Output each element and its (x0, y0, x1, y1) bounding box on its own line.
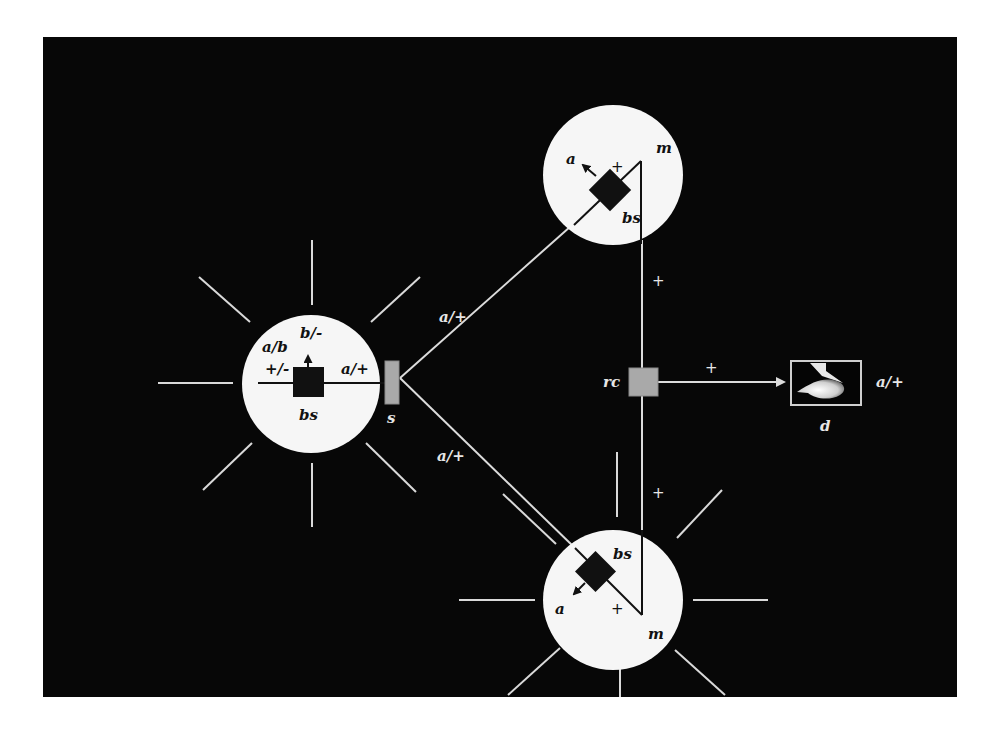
left-node-bs-label: bs (299, 406, 318, 424)
top-node-bs-label: bs (622, 209, 641, 227)
edge-label-top-to-rc: + (652, 272, 665, 290)
switch-label: s (387, 409, 396, 427)
left-node-label-upper-left: a/b (262, 338, 288, 356)
relay-label: rc (603, 373, 620, 391)
bottom-node-corner-label: m (648, 625, 664, 643)
edge-label-bottom-to-rc: + (652, 484, 665, 502)
switch-block (385, 361, 399, 404)
top-node-plus-label: + (611, 158, 624, 176)
bottom-base-station-node[interactable]: bs a + m (543, 530, 683, 670)
edge-label-s-to-bottom: a/+ (437, 447, 465, 465)
relay-block (629, 368, 658, 396)
bottom-node-bs-label: bs (613, 545, 632, 563)
bottom-node-arrow-label: a (555, 600, 565, 618)
top-node-arrow-label: a (566, 150, 576, 168)
left-base-station-block (293, 367, 324, 397)
destination-side-label: a/+ (876, 373, 904, 391)
top-node-corner-label: m (656, 139, 672, 157)
edge-label-s-to-top: a/+ (439, 308, 467, 326)
bottom-node-plus-label: + (611, 600, 624, 618)
left-node-label-right: a/+ (341, 360, 369, 378)
edge-label-rc-to-d: + (705, 359, 718, 377)
diagram-canvas: b/- a/b +/- a/+ bs s a + m bs bs a + m (0, 0, 995, 734)
destination-label: d (820, 417, 831, 435)
left-node-label-top: b/- (300, 324, 322, 342)
top-base-station-node[interactable]: a + m bs (543, 105, 683, 245)
left-node-label-left: +/- (265, 360, 289, 378)
